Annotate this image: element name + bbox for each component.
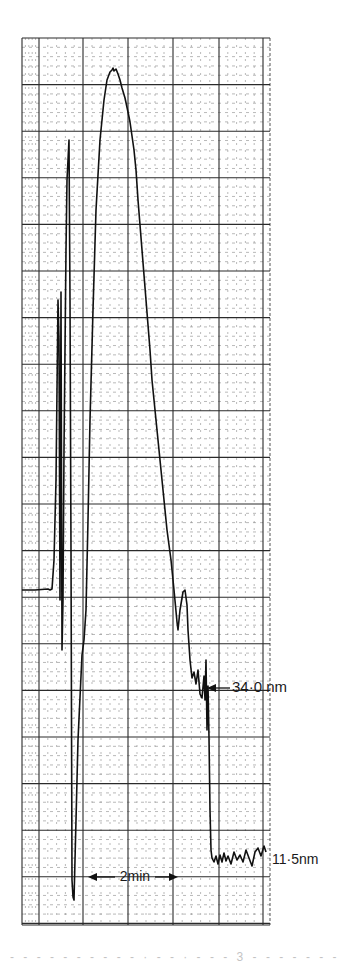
annotation-11-5nm: 11·5nm bbox=[272, 851, 318, 867]
chart-recorder-plot: 34·0 nm 11·5nm 2min bbox=[0, 0, 344, 964]
paper-background bbox=[0, 0, 344, 964]
label-34nm: 34·0 nm bbox=[232, 678, 287, 695]
figure-caption-cutoff: - - - - - - - - - - · - - · - - - 3 - - … bbox=[10, 950, 340, 964]
time-scale-label: 2min bbox=[120, 868, 150, 884]
label-11-5nm: 11·5nm bbox=[272, 851, 318, 867]
